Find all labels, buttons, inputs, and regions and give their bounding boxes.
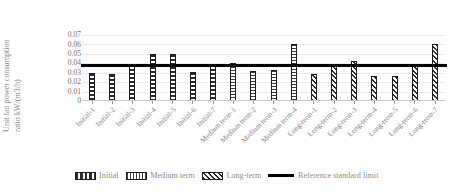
bar xyxy=(291,44,297,102)
legend-pattern-swatch xyxy=(126,172,147,180)
legend-label: Medium term xyxy=(150,172,195,180)
reference-standard-limit-line xyxy=(81,64,447,67)
x-axis-tick-labels: Initial-1Initial-2Initial-3Initial-4Init… xyxy=(82,104,445,152)
bar xyxy=(129,64,135,101)
legend-pattern-swatch xyxy=(202,172,223,180)
y-axis-tick-label: 0.03 xyxy=(68,69,81,77)
bar xyxy=(311,74,317,101)
bar-slot xyxy=(364,35,384,101)
legend-item[interactable]: Initial xyxy=(75,172,119,180)
chart-legend: InitialMedium termLong-termReference sta… xyxy=(0,166,453,186)
plot-area xyxy=(82,35,445,101)
bar-slot xyxy=(183,35,203,101)
bar-slot xyxy=(284,35,304,101)
bar xyxy=(351,61,357,101)
y-axis-tick-label: 0.04 xyxy=(68,59,81,67)
bar xyxy=(271,70,277,101)
legend-label: Reference standard limit xyxy=(298,172,378,180)
bar xyxy=(371,76,377,101)
y-axis-tick-label: 0.06 xyxy=(68,41,81,49)
legend-pattern-swatch xyxy=(75,172,96,180)
bar xyxy=(109,74,115,101)
bar-slot xyxy=(102,35,122,101)
bar-slot xyxy=(203,35,223,101)
bar xyxy=(190,72,196,101)
bar-slot xyxy=(122,35,142,101)
bar-slot xyxy=(82,35,102,101)
y-axis-tick-labels: 0.070.060.050.040.030.020.010 xyxy=(55,28,81,108)
y-axis-tick-label: 0.02 xyxy=(68,78,81,86)
bar-slot xyxy=(143,35,163,101)
x-label-slot: Long-term-7 xyxy=(425,104,445,152)
bar xyxy=(170,54,176,101)
legend-item[interactable]: Reference standard limit xyxy=(268,172,378,180)
bar-slot xyxy=(385,35,405,101)
bar xyxy=(392,76,398,101)
legend-item[interactable]: Long-term xyxy=(202,172,262,180)
bar xyxy=(250,71,256,101)
y-axis-tick-label: 0.07 xyxy=(68,31,81,39)
bar-slot xyxy=(243,35,263,101)
legend-label: Initial xyxy=(99,172,119,180)
bar xyxy=(331,64,337,101)
y-axis-title-line2: ratio kW/(m3/h) xyxy=(13,79,23,132)
chart-figure: Unit fan power consumption ratio kW/(m3/… xyxy=(0,0,453,196)
bar-slot xyxy=(344,35,364,101)
y-axis-title-line1: Unit fan power consumption xyxy=(2,39,12,132)
bar-slot xyxy=(163,35,183,101)
bar-slot xyxy=(425,35,445,101)
bar xyxy=(210,64,216,101)
y-axis-title: Unit fan power consumption ratio kW/(m3/… xyxy=(0,0,34,140)
y-axis-tick-label: 0.01 xyxy=(68,88,81,96)
bar-slot xyxy=(264,35,284,101)
bar-slot xyxy=(405,35,425,101)
bar xyxy=(412,65,418,101)
y-axis-tick-label: 0 xyxy=(77,97,81,105)
legend-line-swatch xyxy=(268,174,294,177)
bar-slot xyxy=(223,35,243,101)
bar-slot xyxy=(324,35,344,101)
legend-label: Long-term xyxy=(226,172,261,180)
bar xyxy=(150,54,156,101)
bar xyxy=(230,63,236,101)
x-axis-tick-label-text: Initial-1 xyxy=(74,106,96,128)
legend-item[interactable]: Medium term xyxy=(126,172,195,180)
y-axis-tick-label: 0.05 xyxy=(68,50,81,58)
bar-slot xyxy=(304,35,324,101)
bar xyxy=(89,73,95,101)
bar-series xyxy=(82,35,445,101)
bar xyxy=(432,44,438,101)
